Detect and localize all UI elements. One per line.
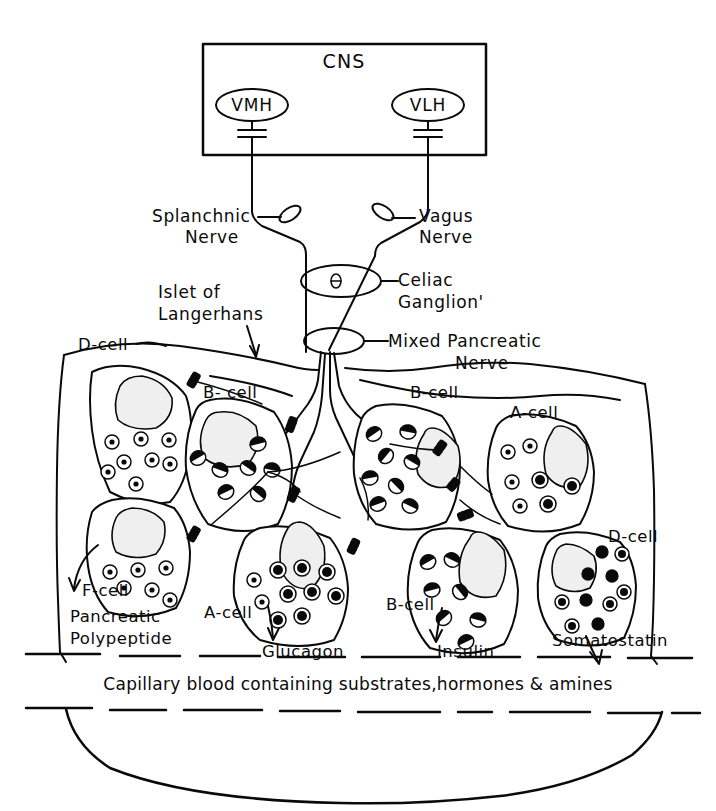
pancreatic-polypeptide-line1: Pancreatic — [70, 607, 161, 626]
celiac-label-line1: Celiac — [398, 270, 453, 290]
cell-a-center: A-cell Glucagon — [204, 522, 348, 661]
a-cell-center-label: A-cell — [204, 603, 252, 622]
cell-b-left: B- cell — [186, 383, 292, 531]
cell-d-right: D-cell Somatostatin — [538, 527, 668, 664]
a-cell-right-label: A-cell — [510, 403, 558, 422]
cell-f-left: F-cell Pancreatic Polypeptide — [69, 498, 190, 648]
vagus-nodule-icon — [370, 200, 397, 223]
insulin-label: Insulin — [437, 642, 495, 661]
capillary-caption: Capillary blood containing substrates,ho… — [103, 674, 612, 694]
figure-canvas: CNS VMH VLH — [0, 0, 716, 811]
vagus-label-line1: Vagus — [419, 206, 473, 226]
capillary-lower-wall — [26, 708, 700, 713]
d-cell-left-label: D-cell — [78, 335, 128, 354]
vagus-label-line2: Nerve — [419, 227, 473, 247]
f-cell-label: F-cell — [82, 581, 129, 600]
b-cell-right-label: B-cell — [410, 383, 459, 402]
pancreas-right-border — [645, 384, 654, 656]
somatostatin-label: Somatostatin — [552, 631, 668, 650]
b-cell-lower-label: B-cell — [386, 595, 435, 614]
cns-label: CNS — [322, 50, 365, 72]
splanchnic-label-line1: Splanchnic — [152, 206, 250, 226]
glucagon-label: Glucagon — [262, 642, 344, 661]
capillary-vessel-bottom — [66, 709, 662, 803]
celiac-label-line2: Ganglion' — [398, 292, 484, 312]
islet-label-line1: Islet of — [158, 282, 221, 302]
vlh-synapse-icon — [414, 121, 442, 155]
vmh-synapse-icon — [238, 121, 266, 155]
splanchnic-label-line2: Nerve — [185, 227, 239, 247]
capillary-bed-group: Capillary blood containing substrates,ho… — [26, 652, 700, 803]
islet-label-line2: Langerhans — [158, 304, 263, 324]
splanchnic-nodule-icon — [277, 202, 304, 225]
vmh-label: VMH — [231, 95, 272, 115]
mixed-pancreatic-label-line1: Mixed Pancreatic — [388, 331, 541, 351]
pancreas-left-border — [57, 355, 64, 652]
cns-group: CNS VMH VLH — [203, 44, 486, 155]
pancreas-innervation-diagram: CNS VMH VLH — [0, 0, 716, 811]
cell-a-right: A-cell — [488, 403, 594, 532]
cell-b-right: B-cell — [354, 383, 460, 530]
vlh-label: VLH — [410, 95, 446, 115]
cell-d-left: D-cell — [78, 335, 191, 504]
d-cell-right-label: D-cell — [608, 527, 658, 546]
pancreatic-polypeptide-line2: Polypeptide — [70, 629, 172, 648]
cell-b-lower-right: B-cell Insulin — [386, 528, 518, 661]
vagus-nerve-path — [329, 155, 428, 350]
